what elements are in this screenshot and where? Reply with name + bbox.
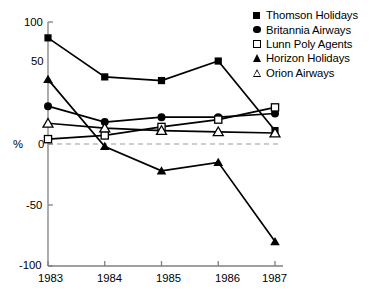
legend-label-horizon-holidays: Horizon Holidays — [266, 52, 350, 64]
data-point-marker — [215, 57, 222, 64]
series-line — [48, 79, 275, 241]
data-point-marker — [158, 77, 165, 84]
data-point-marker — [44, 34, 51, 41]
y-tick-label-neg50: -50 — [26, 199, 42, 211]
data-point-marker — [213, 158, 223, 166]
data-point-marker — [101, 73, 108, 80]
y-axis-label: % — [13, 138, 23, 150]
data-point-marker — [43, 75, 53, 83]
chart-screenshot: 100 50 0 -50 -100 % 1983 1984 1985 1986 … — [0, 0, 388, 293]
series-orion-airways — [43, 118, 280, 136]
filled-square-icon — [253, 12, 266, 19]
legend-label-lunn-poly-agents: Lunn Poly Agents — [266, 38, 352, 50]
filled-circle-icon — [253, 26, 266, 34]
data-point-marker — [101, 132, 108, 139]
data-point-marker — [44, 136, 51, 143]
filled-triangle-icon — [253, 54, 266, 62]
data-point-marker — [215, 116, 222, 123]
series-horizon-holidays — [43, 75, 280, 245]
data-point-marker — [158, 113, 166, 121]
x-tick-label-1987: 1987 — [262, 272, 287, 284]
open-triangle-icon — [253, 69, 266, 77]
legend-item-thomson-holidays: Thomson Holidays — [253, 8, 386, 22]
y-tick-label-50: 50 — [31, 55, 44, 67]
legend-item-britannia-airways: Britannia Airways — [253, 22, 386, 36]
legend-item-lunn-poly-agents: Lunn Poly Agents — [253, 37, 386, 51]
data-point-marker — [271, 104, 278, 111]
legend-label-orion-airways: Orion Airways — [266, 67, 334, 79]
series-lunn-poly-agents — [44, 104, 278, 143]
x-tick-label-1983: 1983 — [38, 272, 63, 284]
legend-label-thomson-holidays: Thomson Holidays — [266, 9, 358, 21]
x-tick-label-1986: 1986 — [215, 272, 240, 284]
legend-item-orion-airways: Orion Airways — [253, 66, 386, 80]
chart-legend: Thomson Holidays Britannia Airways Lunn … — [253, 8, 386, 80]
x-tick-label-1984: 1984 — [97, 272, 122, 284]
open-square-icon — [253, 40, 266, 48]
legend-item-horizon-holidays: Horizon Holidays — [253, 51, 386, 65]
data-point-marker — [44, 102, 52, 110]
y-tick-label-neg100: -100 — [19, 259, 42, 271]
y-tick-label-100: 100 — [24, 16, 43, 28]
y-tick-label-0: 0 — [38, 138, 44, 150]
legend-label-britannia-airways: Britannia Airways — [266, 24, 351, 36]
x-tick-label-1985: 1985 — [156, 272, 181, 284]
